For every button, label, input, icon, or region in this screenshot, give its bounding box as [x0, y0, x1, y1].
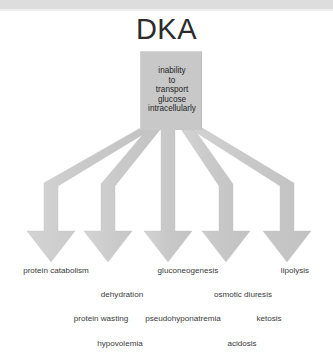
arrow-gluconeogenesis [144, 126, 192, 262]
outcome-label: gluconeogenesis [158, 266, 219, 276]
arrow-osmotic-diuresis [179, 126, 250, 262]
outcome-label: hypovolemia [97, 339, 142, 349]
outcome-label: acidosis [227, 339, 256, 349]
outcome-label: dehydration [101, 290, 143, 300]
root-cause-box: inability to transport glucose intracell… [140, 51, 202, 130]
diagram-canvas: DKA inability to tra [0, 0, 333, 358]
outcome-label: ketosis [256, 314, 281, 324]
outcome-label: osmotic diuresis [214, 290, 272, 300]
outcome-label: pseudohyponatremia [145, 314, 221, 324]
outcome-label: protein wasting [74, 314, 128, 324]
root-cause-label: inability to transport glucose intracell… [141, 66, 203, 114]
outcome-label: lipolysis [281, 266, 309, 276]
outcome-label: protein catabolism [23, 266, 89, 276]
